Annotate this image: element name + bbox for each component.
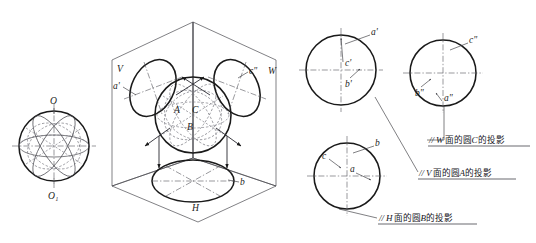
sphere-circle-a-label: A <box>173 104 180 115</box>
svg-text://H面的圆B的投影: //H面的圆B的投影 <box>378 212 453 223</box>
top-view-leader-a <box>356 173 371 180</box>
callout-w-plane-circle-c: //W面的圆C的投影 <box>428 134 530 146</box>
technical-drawing-canvas: O O₁ A C B <box>0 0 536 243</box>
h-ellipse-label-b: b <box>240 177 245 187</box>
callout-v-plane-circle-a: //V面的圆A的投影 <box>418 167 516 179</box>
sphere-pole-top-label: O <box>50 95 57 106</box>
sphere-pole-bottom-label: O₁ <box>48 190 58 201</box>
top-view-label-c: c <box>322 151 327 161</box>
front-view-circle-outline <box>306 35 376 105</box>
v-ellipse-label-a-prime: a' <box>113 81 121 91</box>
v-plane-label: V <box>117 63 124 74</box>
callout-leader-v-plane <box>375 97 418 172</box>
side-view-label-b-double-prime: b" <box>415 88 425 98</box>
arrow-sphere-to-w-lower <box>216 128 241 146</box>
sphere-circle-c-label: C <box>192 104 199 115</box>
figure-root: O O₁ A C B <box>0 0 536 243</box>
side-view-leader-b-double-prime <box>421 79 431 87</box>
front-view-leader-b-prime <box>350 69 360 78</box>
top-view-group: c a b <box>307 136 387 216</box>
projection-box-group: A C B V <box>112 22 277 222</box>
side-view-label-c-double-prime: c" <box>469 35 478 45</box>
sphere-circle-b-label: B <box>187 121 193 132</box>
top-view-label-b: b <box>375 138 380 148</box>
callout-leader-h-plane <box>339 209 377 218</box>
w-plane-label: W <box>268 65 277 76</box>
h-plane-label: H <box>191 202 200 213</box>
left-sphere-group: O O₁ <box>12 95 96 201</box>
side-view-group: b" a" c" <box>403 33 483 113</box>
front-view-label-b-prime: b' <box>345 79 353 89</box>
side-view-leader-a-double-prime <box>436 93 442 101</box>
callout-w-text-body: 面的圆 <box>445 134 472 145</box>
svg-text://W面的圆C的投影: //W面的圆C的投影 <box>428 134 505 145</box>
front-view-leader-c-prime <box>341 38 343 62</box>
w-ellipse-label-c-double-prime: c" <box>249 66 258 76</box>
front-view-label-c-prime: c' <box>345 58 352 68</box>
callout-h-plane-circle-b: //H面的圆B的投影 <box>378 212 477 224</box>
side-view-label-a-double-prime: a" <box>444 93 454 103</box>
leader-c-double-prime <box>238 72 248 78</box>
top-view-label-a: a <box>350 164 355 174</box>
top-view-leader-c <box>329 159 341 168</box>
front-view-group: c' b' a' <box>299 27 383 112</box>
front-view-label-a-prime: a' <box>371 27 379 37</box>
svg-text://V面的圆A的投影: //V面的圆A的投影 <box>418 167 492 178</box>
arrow-sphere-to-v-lower <box>145 128 170 146</box>
